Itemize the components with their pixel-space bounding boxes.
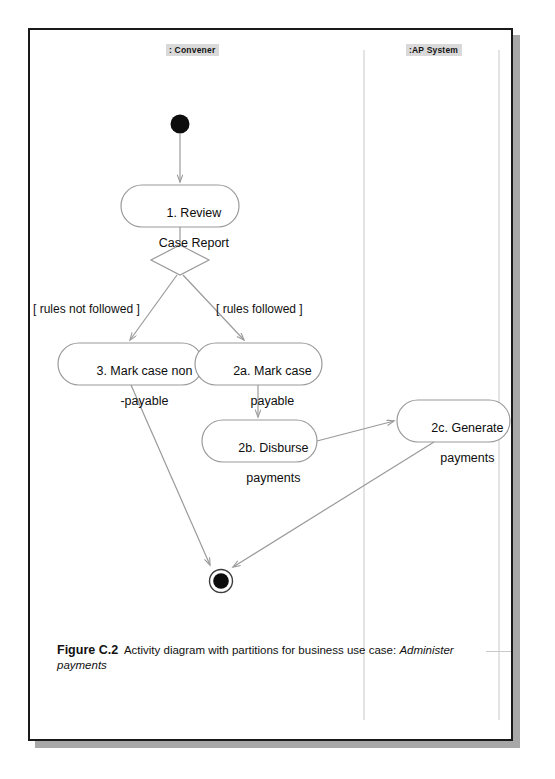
initial-node: [171, 115, 190, 134]
action-node-generate-payments: [397, 400, 510, 442]
edge-mark-non-payable-to-final: [131, 385, 210, 565]
screenshot-root: : Convener :AP System 1. Review Case Rep…: [0, 0, 555, 779]
figure-caption-body: Activity diagram with partitions for bus…: [124, 644, 399, 656]
decision-node: [151, 245, 209, 275]
figure-caption-number: Figure C.2: [57, 643, 118, 657]
activity-diagram: : Convener :AP System 1. Review Case Rep…: [30, 30, 511, 739]
partition-header-ap-system: :AP System: [406, 44, 462, 56]
action-node-review-case-report: [121, 185, 239, 227]
guard-label-rules-not-followed: [ rules not followed ]: [33, 302, 140, 316]
partition-header-convener: : Convener: [166, 44, 219, 56]
book-page-sheet: : Convener :AP System 1. Review Case Rep…: [28, 28, 513, 741]
final-node-core: [213, 573, 229, 589]
figure-caption: Figure C.2 Activity diagram with partiti…: [57, 643, 487, 673]
caption-rule: [486, 651, 511, 652]
action-node-mark-case-non-payable: [58, 343, 203, 385]
action-node-disburse-payments: [202, 420, 317, 462]
edge-disburse-to-generate: [317, 421, 394, 441]
action-node-mark-case-payable: [195, 343, 322, 385]
guard-label-rules-followed: [ rules followed ]: [216, 302, 303, 316]
diagram-vector-layer: [30, 30, 511, 739]
